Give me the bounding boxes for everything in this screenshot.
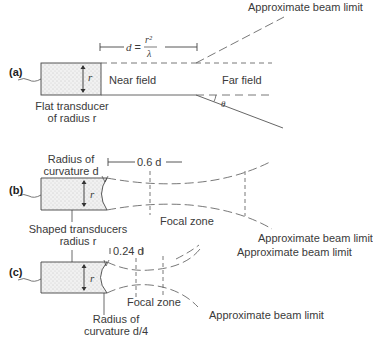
dimension-label-c: 0.24 d — [113, 245, 144, 257]
beam-limit-label-b: Approximate beam limit — [258, 232, 373, 244]
radius-symbol-a: r — [88, 71, 92, 83]
curvature-label-c: Radius of curvature d/4 — [80, 313, 152, 337]
far-field-label: Far field — [222, 74, 262, 86]
focal-zone-label-c: Focal zone — [127, 296, 181, 308]
panel-label-a: (a) — [9, 66, 22, 78]
panel-label-c: (c) — [9, 266, 22, 278]
curvature-label-b: Radius of curvature d — [40, 153, 102, 177]
dimension-numerator: r² — [145, 34, 152, 46]
flat-transducer-label: Flat transducer of radius r — [34, 100, 110, 124]
beam-limit-label-a: Approximate beam limit — [248, 1, 363, 13]
dimension-denominator: λ — [147, 48, 151, 60]
shaped-transducer-b — [41, 178, 107, 210]
beam-limit-label-c-bottom: Approximate beam limit — [209, 309, 324, 321]
beam-limit-c-top — [176, 245, 199, 259]
beam-limit-label-c-top: Approximate beam limit — [237, 246, 352, 258]
focal-zone-label-b: Focal zone — [160, 215, 214, 227]
dimension-d-prefix: d = — [126, 41, 141, 53]
near-field-label: Near field — [109, 74, 156, 86]
cable-a — [18, 79, 41, 82]
angle-theta-label: θ — [221, 98, 225, 110]
shaped-transducer-c — [41, 262, 107, 293]
cable-c — [18, 279, 41, 282]
dimension-label-b: 0.6 d — [137, 156, 161, 168]
radius-symbol-c: r — [90, 272, 94, 284]
radius-symbol-b: r — [90, 188, 94, 200]
panel-label-b: (b) — [9, 184, 23, 196]
shaped-transducers-label: Shaped transducers radius r — [28, 223, 128, 247]
